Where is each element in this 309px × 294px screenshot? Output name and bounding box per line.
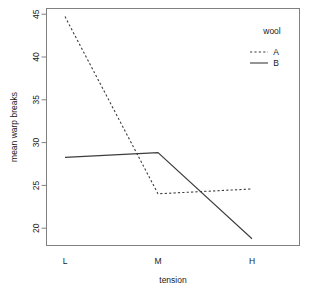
y-axis-tick-labels: 20 25 30 35 40 45: [31, 9, 41, 233]
y-axis-ticks: [42, 14, 47, 228]
y-tick-label-1: 25: [31, 180, 41, 190]
legend: wool A B: [250, 26, 281, 68]
x-axis-title: tension: [159, 275, 187, 285]
y-tick-label-0: 20: [31, 223, 41, 233]
y-tick-label-2: 30: [31, 138, 41, 148]
x-axis-tick-labels: L M H: [63, 256, 255, 266]
chart-canvas: 20 25 30 35 40 45 mean warp breaks L M H…: [0, 0, 309, 294]
legend-label-b: B: [273, 58, 279, 68]
x-tick-label-M: M: [154, 256, 161, 266]
legend-label-a: A: [273, 47, 279, 57]
y-tick-label-5: 45: [31, 9, 41, 19]
x-tick-label-H: H: [249, 256, 255, 266]
y-tick-label-3: 35: [31, 95, 41, 105]
x-tick-label-L: L: [63, 256, 68, 266]
series-line-A: [65, 17, 252, 194]
y-tick-label-4: 40: [31, 52, 41, 62]
y-axis-title: mean warp breaks: [9, 92, 19, 162]
series-line-B: [65, 153, 252, 239]
plot-panel-border: [47, 9, 300, 246]
legend-title: wool: [262, 26, 281, 36]
interaction-plot: 20 25 30 35 40 45 mean warp breaks L M H…: [0, 0, 309, 294]
